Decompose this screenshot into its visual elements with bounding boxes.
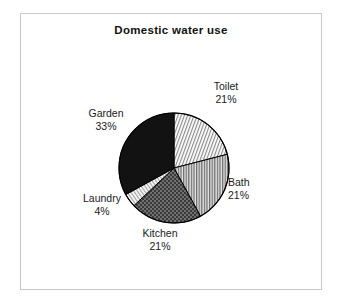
pie-label-bath: Bath 21%	[228, 176, 280, 202]
pie-label-toilet-value: 21%	[199, 93, 253, 106]
pie-label-laundry-value: 4%	[72, 205, 132, 218]
pie-label-laundry: Laundry 4%	[72, 192, 132, 218]
pie-label-bath-name: Bath	[228, 176, 280, 189]
pie-label-toilet: Toilet 21%	[199, 80, 253, 106]
pie-label-garden-name: Garden	[76, 107, 136, 120]
pie-label-bath-value: 21%	[228, 189, 280, 202]
pie-label-garden: Garden 33%	[76, 107, 136, 133]
pie-label-kitchen: Kitchen 21%	[130, 227, 190, 253]
pie-label-kitchen-name: Kitchen	[130, 227, 190, 240]
pie-label-kitchen-value: 21%	[130, 240, 190, 253]
pie-label-laundry-name: Laundry	[72, 192, 132, 205]
chart-title: Domestic water use	[20, 24, 322, 36]
pie-label-garden-value: 33%	[76, 120, 136, 133]
pie-label-toilet-name: Toilet	[199, 80, 253, 93]
